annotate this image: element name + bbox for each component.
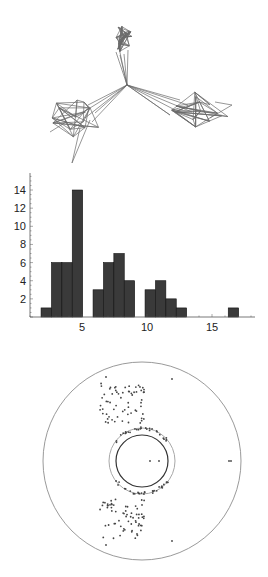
scatter-point bbox=[163, 484, 165, 486]
scatter-point bbox=[128, 391, 130, 393]
scatter-point bbox=[143, 389, 145, 391]
graph-edge bbox=[127, 50, 128, 85]
histogram-bar bbox=[103, 263, 113, 317]
scatter-point bbox=[105, 525, 107, 527]
scatter-point bbox=[122, 432, 124, 434]
scatter-point bbox=[139, 493, 141, 495]
scatter-point bbox=[156, 490, 158, 492]
scatter-point bbox=[102, 504, 104, 506]
scatter-point bbox=[143, 499, 145, 501]
scatter-point bbox=[139, 386, 141, 388]
scatter-point bbox=[102, 413, 104, 415]
scatter-point bbox=[115, 386, 117, 388]
scatter-point bbox=[106, 413, 108, 415]
scatter-point bbox=[140, 389, 142, 391]
histogram-bar bbox=[228, 308, 238, 317]
scatter-point bbox=[158, 460, 160, 462]
scatter-point bbox=[130, 412, 132, 414]
y-tick-label: 6 bbox=[20, 257, 26, 269]
scatter-point bbox=[107, 422, 109, 424]
annulus-scatter-panel bbox=[0, 340, 268, 577]
scatter-point bbox=[102, 501, 104, 503]
scatter-point bbox=[124, 386, 126, 388]
scatter-point bbox=[135, 505, 137, 507]
scatter-point bbox=[151, 428, 153, 430]
graph-edges bbox=[50, 27, 232, 163]
graph-edge bbox=[127, 85, 175, 110]
scatter-point bbox=[140, 402, 142, 404]
scatter-point bbox=[131, 531, 133, 533]
scatter-point bbox=[120, 525, 122, 527]
scatter-point bbox=[140, 530, 142, 532]
histogram-panel: 246810121451015 bbox=[0, 165, 268, 340]
scatter-point bbox=[165, 439, 167, 441]
scatter-point bbox=[136, 533, 138, 535]
scatter-point bbox=[134, 493, 136, 495]
histogram-bar bbox=[93, 290, 103, 317]
scatter-point bbox=[125, 516, 127, 518]
scatter-point bbox=[115, 390, 117, 392]
annulus-scatter-chart bbox=[0, 340, 268, 577]
scatter-point bbox=[129, 490, 131, 492]
scatter-point bbox=[128, 422, 130, 424]
scatter-point bbox=[171, 540, 173, 542]
scatter-point bbox=[143, 517, 145, 519]
scatter-point bbox=[113, 537, 115, 539]
scatter-point bbox=[143, 493, 145, 495]
scatter-point bbox=[141, 420, 143, 422]
scatter-point bbox=[143, 418, 145, 420]
scatter-point bbox=[128, 385, 130, 387]
scatter-point bbox=[120, 397, 122, 399]
scatter-point bbox=[111, 393, 113, 395]
y-tick-label: 8 bbox=[20, 238, 26, 250]
scatter-point bbox=[127, 431, 129, 433]
scatter-point bbox=[228, 460, 230, 462]
scatter-point bbox=[115, 480, 117, 482]
histogram-bar bbox=[166, 299, 176, 317]
scatter-point bbox=[149, 460, 151, 462]
scatter-point bbox=[143, 391, 145, 393]
scatter-point bbox=[130, 516, 132, 518]
scatter-point bbox=[121, 420, 123, 422]
scatter-point bbox=[134, 409, 136, 411]
scatter-point bbox=[117, 416, 119, 418]
graph-edge bbox=[193, 92, 195, 119]
scatter-point bbox=[136, 508, 138, 510]
scatter-point bbox=[138, 384, 140, 386]
scatter-point bbox=[107, 401, 109, 403]
scatter-point bbox=[116, 440, 118, 442]
scatter-point bbox=[115, 511, 117, 513]
scatter-point bbox=[165, 437, 167, 439]
histogram-bars bbox=[41, 190, 239, 317]
graph-edge bbox=[77, 100, 84, 102]
scatter-point bbox=[128, 406, 130, 408]
graph-edge bbox=[119, 48, 127, 85]
histogram-bar bbox=[124, 281, 134, 317]
scatter-point bbox=[107, 504, 109, 506]
outer-circle bbox=[43, 362, 241, 560]
scatter-point bbox=[141, 399, 143, 401]
network-graph-panel bbox=[0, 0, 268, 165]
scatter-point bbox=[138, 429, 140, 431]
scatter-point bbox=[138, 517, 140, 519]
scatter-point bbox=[138, 523, 140, 525]
scatter-point bbox=[102, 537, 104, 539]
histogram-chart: 246810121451015 bbox=[0, 165, 268, 340]
graph-edge bbox=[56, 102, 84, 103]
scatter-point bbox=[149, 428, 151, 430]
histogram-bar bbox=[62, 263, 72, 317]
scatter-point bbox=[135, 520, 137, 522]
scatter-point bbox=[134, 537, 136, 539]
scatter-point bbox=[137, 491, 139, 493]
scatter-point bbox=[100, 405, 102, 407]
scatter-point bbox=[115, 405, 117, 407]
graph-edge bbox=[52, 103, 56, 118]
scatter-point bbox=[143, 516, 145, 518]
scatter-point bbox=[136, 391, 138, 393]
scatter-point bbox=[127, 402, 129, 404]
scatter-point bbox=[130, 392, 132, 394]
histogram-bar bbox=[51, 263, 61, 317]
scatter-point bbox=[109, 388, 111, 390]
scatter-point bbox=[133, 391, 135, 393]
scatter-point bbox=[118, 393, 120, 395]
